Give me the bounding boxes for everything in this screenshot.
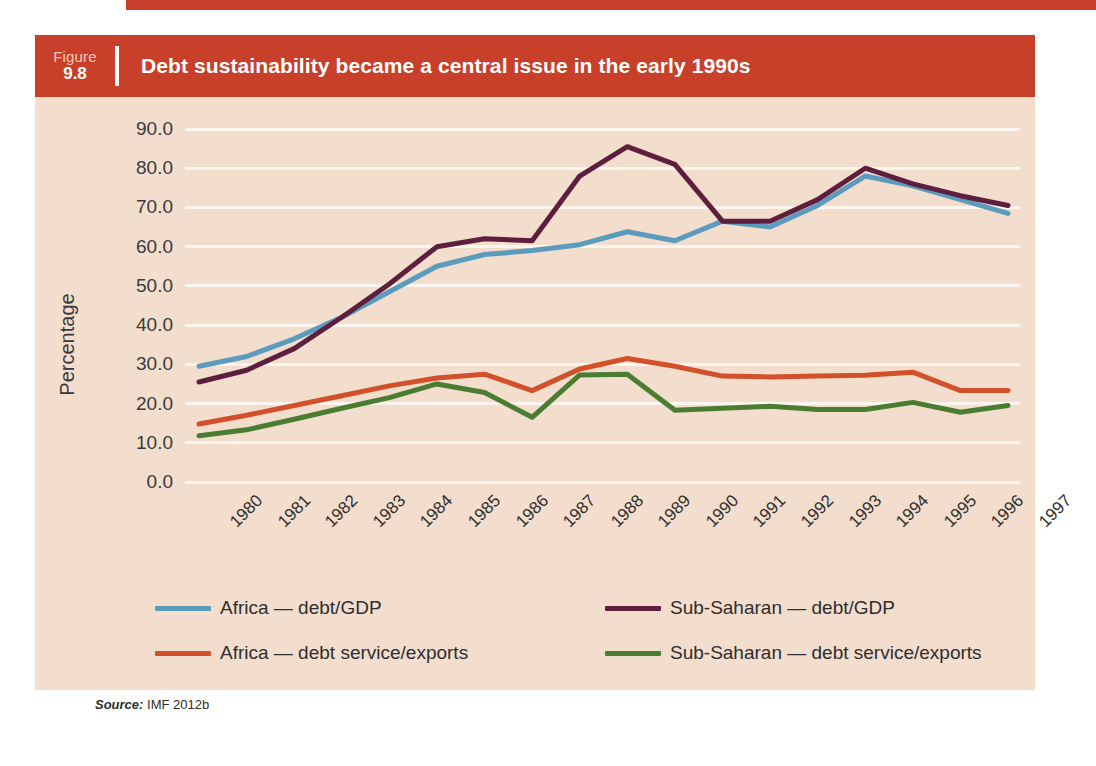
x-axis-tick-label: 1991 bbox=[750, 491, 791, 532]
legend-label: Sub-Saharan — debt service/exports bbox=[670, 642, 982, 664]
x-axis-tick-label: 1995 bbox=[940, 491, 981, 532]
y-axis-tick-label: 20.0 bbox=[136, 393, 173, 415]
legend-label: Africa — debt service/exports bbox=[220, 642, 468, 664]
chart-body: Percentage 0.010.020.030.040.050.060.070… bbox=[35, 97, 1035, 690]
y-axis-tick-label: 10.0 bbox=[136, 432, 173, 454]
source-label: Source: bbox=[95, 697, 143, 712]
x-axis-tick-label: 1984 bbox=[416, 491, 457, 532]
y-axis-tick-label: 60.0 bbox=[136, 236, 173, 258]
x-axis-tick-label: 1996 bbox=[987, 491, 1028, 532]
legend-item: Sub-Saharan — debt service/exports bbox=[605, 642, 982, 664]
header-divider bbox=[115, 46, 119, 86]
series-line bbox=[199, 374, 1008, 436]
figure-title: Debt sustainability became a central iss… bbox=[141, 54, 751, 78]
legend-color-swatch bbox=[605, 651, 661, 656]
y-axis-tick-label: 70.0 bbox=[136, 196, 173, 218]
plot-area: 0.010.020.030.040.050.060.070.080.090.0 … bbox=[185, 129, 1020, 482]
y-axis-tick-label: 30.0 bbox=[136, 353, 173, 375]
series-line bbox=[199, 176, 1008, 366]
y-axis-tick-label: 80.0 bbox=[136, 157, 173, 179]
legend-color-swatch bbox=[155, 606, 211, 611]
legend-item: Sub-Saharan — debt/GDP bbox=[605, 597, 895, 619]
x-axis-tick-label: 1989 bbox=[654, 491, 695, 532]
x-axis-tick-label: 1992 bbox=[797, 491, 838, 532]
x-axis-tick-label: 1985 bbox=[464, 491, 505, 532]
y-axis-title: Percentage bbox=[56, 195, 79, 495]
y-axis-tick-label: 40.0 bbox=[136, 314, 173, 336]
y-axis-tick-label: 0.0 bbox=[147, 471, 173, 493]
legend-item: Africa — debt service/exports bbox=[155, 642, 468, 664]
x-axis-tick-label: 1981 bbox=[274, 491, 315, 532]
x-axis-tick-label: 1980 bbox=[226, 491, 267, 532]
x-axis-tick-label: 1986 bbox=[512, 491, 553, 532]
source-note: Source: IMF 2012b bbox=[95, 697, 209, 712]
legend-label: Sub-Saharan — debt/GDP bbox=[670, 597, 895, 619]
figure-panel: Figure 9.8 Debt sustainability became a … bbox=[35, 35, 1035, 690]
x-axis-tick-label: 1990 bbox=[702, 491, 743, 532]
figure-number: 9.8 bbox=[63, 65, 87, 83]
legend-label: Africa — debt/GDP bbox=[220, 597, 382, 619]
x-axis-tick-label: 1994 bbox=[892, 491, 933, 532]
x-axis-tick-label: 1988 bbox=[607, 491, 648, 532]
figure-screenshot: Figure 9.8 Debt sustainability became a … bbox=[0, 0, 1096, 766]
page-top-strip bbox=[126, 0, 1096, 10]
legend-item: Africa — debt/GDP bbox=[155, 597, 382, 619]
x-axis-tick-label: 1982 bbox=[321, 491, 362, 532]
x-axis-tick-label: 1987 bbox=[559, 491, 600, 532]
series-lines bbox=[185, 129, 1020, 482]
chart-legend: Africa — debt/GDPSub-Saharan — debt/GDPA… bbox=[35, 597, 1035, 675]
y-axis-tick-label: 90.0 bbox=[136, 118, 173, 140]
legend-color-swatch bbox=[605, 606, 661, 611]
x-axis-tick-label: 1983 bbox=[369, 491, 410, 532]
figure-header-banner: Figure 9.8 Debt sustainability became a … bbox=[35, 35, 1035, 97]
x-axis-tick-label: 1993 bbox=[845, 491, 886, 532]
legend-color-swatch bbox=[155, 651, 211, 656]
x-axis-tick-label: 1997 bbox=[1035, 491, 1076, 532]
figure-number-block: Figure 9.8 bbox=[35, 35, 115, 97]
figure-label: Figure bbox=[53, 49, 97, 65]
source-text: IMF 2012b bbox=[147, 697, 209, 712]
y-axis-tick-label: 50.0 bbox=[136, 275, 173, 297]
